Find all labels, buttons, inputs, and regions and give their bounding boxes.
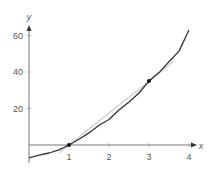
x-tick-3: 3 — [146, 152, 151, 162]
y-tick-20: 20 — [13, 104, 23, 114]
function-curve — [29, 30, 189, 158]
y-axis-label: y — [26, 12, 32, 22]
point-x3 — [147, 79, 151, 83]
x-axis-label: x — [198, 141, 204, 151]
x-tick-1: 1 — [66, 152, 71, 162]
point-x1 — [67, 143, 71, 147]
y-tick-40: 40 — [13, 67, 23, 77]
x-tick-4: 4 — [186, 152, 191, 162]
x-axis-arrow-icon — [191, 143, 197, 148]
y-axis-arrow-icon — [27, 25, 32, 31]
y-tick-60: 60 — [13, 31, 23, 41]
x-tick-2: 2 — [106, 152, 111, 162]
chart: 1 2 3 4 20 40 60 x y — [0, 0, 208, 173]
